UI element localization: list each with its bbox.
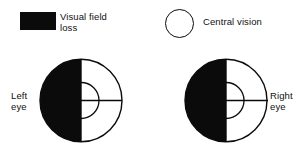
right-eye-field-graphic bbox=[184, 58, 268, 143]
right-eye-label: Right eye bbox=[270, 90, 293, 112]
legend-swatch-central-vision bbox=[165, 9, 194, 38]
legend-label-central-vision: Central vision bbox=[203, 16, 262, 27]
legend-label-visual-field-loss: Visual field loss bbox=[60, 11, 107, 33]
left-eye-field-graphic bbox=[39, 58, 123, 143]
visual-field-diagram: Visual field loss Central vision Left ey… bbox=[0, 0, 294, 154]
left-eye-shaded-half bbox=[40, 59, 81, 142]
right-eye-shaded-half bbox=[185, 59, 226, 142]
right-eye-field-diagram bbox=[184, 58, 268, 143]
legend-swatch-visual-field-loss bbox=[20, 12, 56, 30]
left-eye-field-diagram bbox=[39, 58, 123, 143]
left-eye-label: Left eye bbox=[11, 90, 27, 112]
